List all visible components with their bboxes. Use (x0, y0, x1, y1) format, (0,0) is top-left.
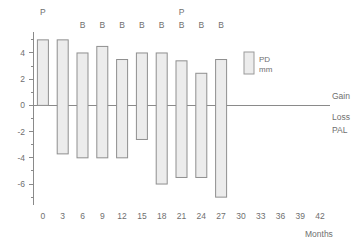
bar (117, 60, 128, 158)
y-tick-label: 4 (9, 49, 25, 58)
legend-swatch (244, 52, 254, 74)
chart-container: 420-2-4-6 03691215182124273033363942 PBB… (0, 0, 357, 244)
x-tick-label: 39 (291, 212, 309, 221)
x-tick-label: 15 (133, 212, 151, 221)
bar (176, 61, 187, 178)
mark-b: B (74, 21, 92, 30)
mark-b: B (212, 21, 230, 30)
mark-b: B (192, 21, 210, 30)
mark-b: B (133, 21, 151, 30)
x-tick-label: 24 (192, 212, 210, 221)
mark-b: B (113, 21, 131, 30)
x-tick-label: 33 (252, 212, 270, 221)
mark-b: B (93, 21, 111, 30)
plot-area: 420-2-4-6 03691215182124273033363942 PBB… (0, 0, 357, 244)
y-tick-label: 0 (9, 101, 25, 110)
chart-graphic (0, 0, 357, 244)
mark-b: B (173, 21, 191, 30)
x-tick-label: 30 (232, 212, 250, 221)
x-tick-label: 0 (34, 212, 52, 221)
mark-p: P (34, 8, 52, 17)
bar (196, 73, 207, 177)
bar (97, 46, 108, 157)
x-tick-label: 36 (272, 212, 290, 221)
legend-label-mm: mm (259, 65, 272, 75)
bar (37, 40, 48, 106)
x-tick-label: 9 (93, 212, 111, 221)
x-tick-label: 21 (173, 212, 191, 221)
x-tick-label: 6 (74, 212, 92, 221)
y-tick-label: -4 (9, 154, 25, 163)
x-tick-label: 3 (54, 212, 72, 221)
x-axis-title: Months (305, 230, 333, 239)
bars-group (37, 40, 226, 197)
mark-b: B (153, 21, 171, 30)
bar (77, 53, 88, 158)
y-tick-label: 2 (9, 75, 25, 84)
y-tick-label: -6 (9, 180, 25, 189)
bar (216, 60, 227, 198)
bar (136, 53, 147, 140)
pal-label: PAL (332, 126, 347, 135)
bar (156, 53, 167, 184)
mark-p: P (173, 8, 191, 17)
x-tick-label: 18 (153, 212, 171, 221)
legend-swatch-group (244, 52, 254, 74)
legend-label-pd: PD (259, 55, 270, 65)
bar (57, 40, 68, 154)
x-tick-label: 42 (311, 212, 329, 221)
x-tick-label: 27 (212, 212, 230, 221)
gain-label: Gain (332, 92, 350, 101)
loss-label: Loss (332, 113, 350, 122)
y-tick-label: -2 (9, 128, 25, 137)
x-tick-label: 12 (113, 212, 131, 221)
